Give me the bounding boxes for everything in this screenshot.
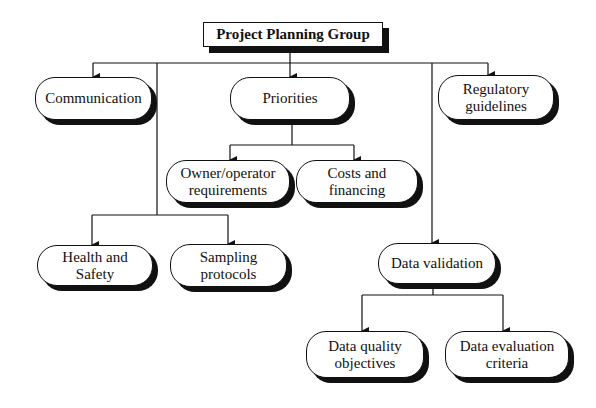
- node-health-and-safety: Health and Safety: [37, 245, 153, 286]
- node-label-line2: financing: [328, 182, 387, 199]
- node-priorities: Priorities: [230, 77, 350, 120]
- node-label: Data validation: [391, 255, 483, 272]
- node-label-line1: Owner/operator: [181, 165, 276, 182]
- node-data-validation: Data validation: [378, 243, 496, 284]
- node-costs-and-financing: Costs and financing: [296, 160, 418, 203]
- node-label-line2: objectives: [328, 355, 402, 372]
- node-label-line2: Safety: [62, 266, 127, 283]
- node-label-line1: Data evaluation: [460, 338, 555, 355]
- node-label-line1: Data quality: [328, 338, 402, 355]
- node-label-line2: criteria: [460, 355, 555, 372]
- node-sampling-protocols: Sampling protocols: [170, 244, 287, 287]
- node-label: Project Planning Group: [216, 26, 370, 43]
- node-data-evaluation-criteria: Data evaluation criteria: [445, 331, 569, 378]
- node-label-line1: Sampling: [200, 249, 258, 266]
- node-label-line2: guidelines: [463, 98, 530, 115]
- node-owner-operator-requirements: Owner/operator requirements: [166, 160, 290, 203]
- node-label-line2: protocols: [200, 266, 258, 283]
- node-regulatory-guidelines: Regulatory guidelines: [438, 75, 554, 120]
- node-data-quality-objectives: Data quality objectives: [306, 331, 424, 378]
- node-label-line1: Regulatory: [463, 81, 530, 98]
- node-label-line2: requirements: [181, 182, 276, 199]
- node-label-line1: Costs and: [328, 165, 387, 182]
- node-label: Communication: [45, 90, 142, 107]
- node-project-planning-group: Project Planning Group: [203, 22, 383, 47]
- node-communication: Communication: [35, 77, 152, 120]
- node-label-line1: Health and: [62, 249, 127, 266]
- node-label: Priorities: [263, 90, 318, 107]
